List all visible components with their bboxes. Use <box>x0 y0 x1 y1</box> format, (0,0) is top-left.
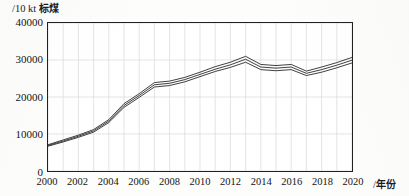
chart-figure: /10 kt 标煤 /年份 400003000020000100000 2000… <box>0 0 409 196</box>
y-axis-title-cjk: 标煤 <box>39 3 59 14</box>
y-tick-label: 40000 <box>16 17 44 28</box>
y-tick-label: 30000 <box>16 54 44 65</box>
x-tick-label: 2020 <box>339 176 367 187</box>
x-tick-label: 2002 <box>64 176 92 187</box>
x-tick-label: 2016 <box>278 176 306 187</box>
y-tick-label: 10000 <box>16 129 44 140</box>
x-tick-label: 2010 <box>186 176 214 187</box>
data-series-lines <box>48 23 352 171</box>
x-tick-label: 2014 <box>247 176 275 187</box>
y-tick-label: 20000 <box>16 92 44 103</box>
x-tick-label: 2012 <box>217 176 245 187</box>
x-tick-label: 2006 <box>125 176 153 187</box>
y-axis-title-unit: /10 kt <box>12 3 39 14</box>
x-axis-title-cjk: 年份 <box>376 179 396 190</box>
x-tick-label: 2008 <box>155 176 183 187</box>
x-tick-label: 2004 <box>94 176 122 187</box>
x-tick-label: 2000 <box>33 176 61 187</box>
plot-area <box>47 22 353 172</box>
x-tick-label: 2018 <box>308 176 336 187</box>
y-axis-title: /10 kt 标煤 <box>12 3 59 15</box>
x-axis-title: /年份 <box>373 176 396 191</box>
